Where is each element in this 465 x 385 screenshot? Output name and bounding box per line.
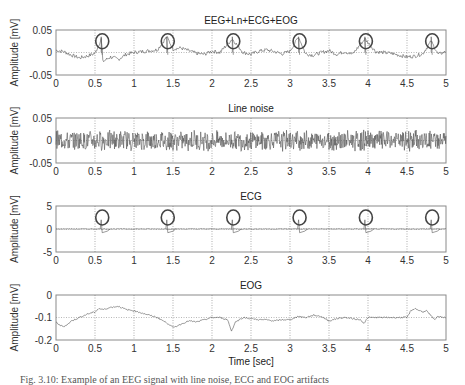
x-tick-label: 1.5 bbox=[166, 255, 180, 266]
y-tick-label: 0 bbox=[46, 47, 52, 58]
subplot-4: EOG00.511.522.533.544.55-0.2-0.10Amplitu… bbox=[9, 280, 449, 367]
x-tick-label: 4 bbox=[365, 255, 371, 266]
y-tick-label: 5 bbox=[46, 201, 52, 212]
x-tick-label: 3 bbox=[287, 78, 293, 89]
x-tick-label: 0 bbox=[53, 78, 59, 89]
y-tick-label: -5 bbox=[43, 247, 52, 258]
x-tick-label: 4 bbox=[365, 343, 371, 354]
x-tick-label: 1 bbox=[131, 255, 137, 266]
x-tick-label: 2 bbox=[209, 78, 215, 89]
x-tick-label: 4 bbox=[365, 166, 371, 177]
x-tick-label: 0.5 bbox=[88, 255, 102, 266]
y-tick-label: -0.1 bbox=[35, 312, 53, 323]
x-tick-label: 5 bbox=[443, 255, 449, 266]
y-axis-label: Amplitude [mV] bbox=[9, 195, 20, 263]
x-tick-label: 3.5 bbox=[322, 78, 336, 89]
x-tick-label: 0.5 bbox=[88, 78, 102, 89]
x-axis-label: Time [sec] bbox=[228, 356, 274, 367]
subplot-1: EEG+Ln+ECG+EOG00.511.522.533.544.55-0.05… bbox=[9, 15, 449, 89]
x-tick-label: 0.5 bbox=[88, 343, 102, 354]
subplot-title: Line noise bbox=[228, 103, 274, 114]
subplot-title: EEG+Ln+ECG+EOG bbox=[204, 15, 298, 26]
x-tick-label: 0.5 bbox=[88, 166, 102, 177]
figure-caption: Fig. 3.10: Example of an EEG signal with… bbox=[20, 374, 329, 385]
x-tick-label: 3 bbox=[287, 166, 293, 177]
x-tick-label: 4.5 bbox=[400, 255, 414, 266]
x-tick-label: 3 bbox=[287, 343, 293, 354]
x-tick-label: 3.5 bbox=[322, 255, 336, 266]
y-axis-label: Amplitude [mV] bbox=[9, 18, 20, 86]
x-tick-label: 2.5 bbox=[244, 166, 258, 177]
x-tick-label: 1 bbox=[131, 166, 137, 177]
x-tick-label: 2 bbox=[209, 166, 215, 177]
x-tick-label: 4.5 bbox=[400, 166, 414, 177]
x-tick-label: 2.5 bbox=[244, 343, 258, 354]
y-tick-label: -0.2 bbox=[35, 335, 53, 346]
x-tick-label: 0 bbox=[53, 166, 59, 177]
x-tick-label: 2.5 bbox=[244, 78, 258, 89]
y-tick-label: 0 bbox=[46, 224, 52, 235]
y-axis-label: Amplitude [mV] bbox=[9, 283, 20, 351]
x-tick-label: 2 bbox=[209, 255, 215, 266]
x-tick-label: 3.5 bbox=[322, 166, 336, 177]
y-tick-label: -0.05 bbox=[29, 158, 52, 169]
subplot-title: EOG bbox=[240, 280, 262, 291]
x-tick-label: 4 bbox=[365, 78, 371, 89]
x-tick-label: 5 bbox=[443, 343, 449, 354]
x-tick-label: 2 bbox=[209, 343, 215, 354]
x-tick-label: 1.5 bbox=[166, 343, 180, 354]
subplot-2: Line noise00.511.522.533.544.55-0.0500.0… bbox=[9, 103, 449, 177]
subplot-title: ECG bbox=[240, 191, 262, 202]
x-tick-label: 5 bbox=[443, 78, 449, 89]
y-tick-label: 0 bbox=[46, 135, 52, 146]
x-tick-label: 3.5 bbox=[322, 343, 336, 354]
x-tick-label: 2.5 bbox=[244, 255, 258, 266]
x-tick-label: 4.5 bbox=[400, 343, 414, 354]
y-axis-label: Amplitude [mV] bbox=[9, 106, 20, 174]
y-tick-label: 0 bbox=[46, 290, 52, 301]
x-tick-label: 0 bbox=[53, 255, 59, 266]
x-tick-label: 1.5 bbox=[166, 78, 180, 89]
x-tick-label: 3 bbox=[287, 255, 293, 266]
x-tick-label: 1.5 bbox=[166, 166, 180, 177]
x-tick-label: 1 bbox=[131, 343, 137, 354]
y-tick-label: 0.05 bbox=[33, 113, 53, 124]
x-tick-label: 4.5 bbox=[400, 78, 414, 89]
x-tick-label: 0 bbox=[53, 343, 59, 354]
y-tick-label: 0.05 bbox=[33, 25, 53, 36]
y-tick-label: -0.05 bbox=[29, 70, 52, 81]
subplot-3: ECG00.511.522.533.544.55-505Amplitude [m… bbox=[9, 191, 449, 266]
x-tick-label: 5 bbox=[443, 166, 449, 177]
x-tick-label: 1 bbox=[131, 78, 137, 89]
